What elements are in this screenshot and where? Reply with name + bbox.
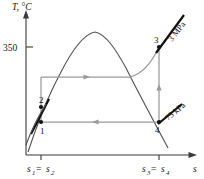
state-label-3: 3 [154, 35, 159, 45]
x-tick-label-s1s2: s 1 = s 2 [27, 164, 55, 176]
state-point-1-dot [39, 120, 43, 124]
x-tick-s4-symbol: s [161, 164, 165, 174]
arrow-condenser-left [92, 119, 99, 124]
state-points-group [39, 45, 161, 124]
x-axis-title: s [193, 164, 197, 174]
cycle-process-group [41, 47, 162, 125]
x-tick-s1-subscript: 1 [32, 169, 35, 176]
state-point-4-dot [157, 120, 161, 124]
saturation-dome-group [28, 32, 168, 152]
y-axis-title: T, °C [12, 2, 32, 12]
pressure-label-75kpa: 75 kPa [163, 100, 188, 123]
state-point-2-dot [39, 105, 43, 109]
x-tick-s1-symbol: s [27, 164, 31, 174]
x-tick-s3-symbol: s [142, 164, 146, 174]
y-tick-label-350: 350 [3, 43, 18, 53]
ts-diagram-figure: T, °C 350 s s 1 = s 2 s 3 = s 4 1 [0, 0, 204, 179]
arrow-turbine-down [156, 84, 161, 91]
x-axis-arrowhead [189, 152, 198, 158]
x-tick-s2-symbol: s [46, 164, 50, 174]
state-label-2: 2 [39, 95, 44, 105]
ts-diagram-svg: T, °C 350 s s 1 = s 2 s 3 = s 4 1 [0, 0, 204, 179]
state-point-3-dot [157, 45, 161, 49]
process-superheat-curve [130, 47, 159, 77]
arrow-boiler-right [84, 74, 91, 79]
labels-group: T, °C 350 s s 1 = s 2 s 3 = s 4 1 [3, 2, 197, 176]
pressure-label-3mpa: 3 MPa [166, 19, 188, 43]
x-tick-label-s3s4: s 3 = s 4 [142, 164, 170, 176]
x-tick-equals-left: = [36, 164, 41, 174]
x-tick-s4-subscript: 4 [166, 169, 170, 176]
saturation-dome-curve [28, 32, 168, 152]
state-label-4: 4 [155, 125, 160, 135]
state-label-1: 1 [40, 126, 45, 136]
x-tick-s2-subscript: 2 [51, 169, 55, 176]
x-tick-equals-right: = [151, 164, 156, 174]
isobar-group [26, 15, 184, 145]
